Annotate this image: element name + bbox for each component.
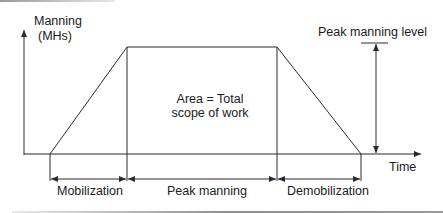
peak-manning-level-label: Peak manning level bbox=[318, 25, 427, 40]
phase-label-mobilization: Mobilization bbox=[57, 184, 123, 199]
x-axis-label: Time bbox=[389, 160, 416, 175]
phase-label-demobilization: Demobilization bbox=[287, 184, 369, 199]
area-label-line1: Area = Total bbox=[160, 92, 260, 107]
bottom-edge-rule bbox=[12, 211, 443, 213]
area-label-line2: scope of work bbox=[150, 106, 270, 121]
phase-label-peak-manning: Peak manning bbox=[167, 184, 247, 199]
y-axis-unit-label: (MHs) bbox=[38, 29, 72, 44]
y-axis-label: Manning bbox=[34, 14, 82, 29]
